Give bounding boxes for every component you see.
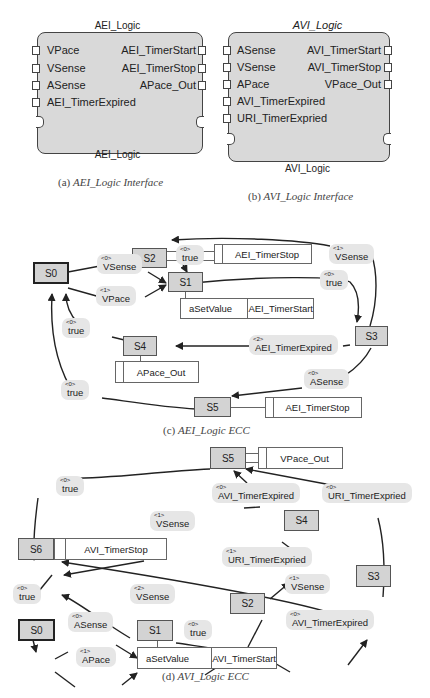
transition-condition[interactable]: <0>true — [176, 245, 204, 265]
condition-label: VSense — [335, 251, 368, 262]
figure-caption: (d) AVI_Logic ECC — [162, 670, 249, 682]
condition-label: true — [67, 387, 83, 398]
figure-caption: (c) AEI_Logic ECC — [163, 424, 250, 436]
action-bar — [116, 362, 124, 382]
action-connector — [231, 407, 265, 408]
transition-condition[interactable]: <2>AEI_TimerExpired — [249, 335, 338, 355]
action-output: AVI_TimerStart — [212, 653, 276, 664]
state-s1[interactable]: S1 — [137, 620, 173, 641]
state-action: AEI_TimerStop — [214, 244, 312, 264]
transition-condition[interactable]: <0>true — [184, 620, 212, 640]
action-algorithm: aSetValue — [138, 648, 212, 668]
state-s1[interactable]: S1 — [168, 272, 203, 292]
condition-label: ASense — [74, 619, 107, 630]
transition-condition[interactable]: <0>URI_TimerExpried — [322, 483, 412, 503]
transition-condition[interactable]: <0>ASense — [68, 612, 113, 632]
condition-label: ASense — [310, 376, 343, 387]
state-action: APace_Out — [115, 361, 199, 383]
state-s5[interactable]: S5 — [210, 447, 246, 469]
condition-label: true — [68, 325, 84, 336]
caption-prefix: (d) — [162, 670, 175, 682]
state-action: VPace_Out — [258, 447, 343, 469]
action-bar — [215, 245, 223, 263]
condition-label: VSense — [156, 518, 189, 529]
transition-condition[interactable]: <0>true — [61, 380, 89, 400]
state-s3[interactable]: S3 — [356, 565, 391, 587]
transition-condition[interactable]: <1>VPace — [96, 286, 136, 306]
state-s2[interactable]: S2 — [230, 593, 265, 614]
condition-label: AVI_TimerExpired — [292, 617, 368, 628]
transition-condition[interactable]: <0>true — [320, 270, 348, 290]
state-action: AVI_TimerStop — [66, 538, 167, 560]
action-output: AVI_TimerStop — [66, 544, 166, 555]
transition-condition[interactable]: <0>AVI_TimerExpired — [212, 483, 300, 503]
action-bar — [259, 448, 267, 468]
condition-label: true — [19, 591, 35, 602]
transition-condition[interactable]: <1>URI_TimerExpried — [222, 547, 312, 567]
state-s4[interactable]: S4 — [284, 510, 319, 531]
state-s0-initial[interactable]: S0 — [33, 262, 69, 284]
transition-condition[interactable]: <0>true — [13, 584, 41, 604]
condition-label: true — [190, 627, 206, 638]
condition-label: VSense — [136, 591, 169, 602]
condition-label: VSense — [291, 581, 324, 592]
state-s5[interactable]: S5 — [194, 397, 231, 417]
condition-label: true — [62, 483, 78, 494]
state-action: aSetValue AEI_TimerStart — [180, 298, 314, 319]
condition-label: APace — [82, 654, 110, 665]
action-output: APace_Out — [124, 367, 198, 378]
action-connector — [140, 356, 141, 361]
caption-text: AEI_Logic ECC — [178, 424, 250, 436]
condition-label: AVI_TimerExpired — [218, 490, 294, 501]
condition-label: URI_TimerExpried — [228, 554, 306, 565]
action-connector — [185, 292, 186, 298]
action-output: VPace_Out — [267, 453, 342, 464]
transition-condition[interactable]: <0>true — [62, 318, 90, 338]
action-output: AEI_TimerStop — [274, 402, 361, 413]
transition-condition[interactable]: <0>VSense — [97, 254, 142, 274]
action-algorithm: aSetValue — [181, 299, 248, 318]
condition-label: VSense — [103, 261, 136, 272]
action-connector — [246, 453, 258, 463]
state-s6[interactable]: S6 — [18, 538, 54, 560]
transition-condition[interactable]: <2>VSense — [130, 584, 175, 604]
condition-label: VPace — [102, 293, 130, 304]
condition-label: true — [182, 252, 198, 263]
state-s3[interactable]: S3 — [355, 326, 388, 346]
transition-edges — [0, 0, 430, 698]
transition-condition[interactable]: <0>true — [56, 476, 84, 496]
caption-prefix: (c) — [163, 424, 175, 436]
action-output: AEI_TimerStart — [248, 303, 313, 314]
state-s0-initial[interactable]: S0 — [18, 619, 55, 641]
caption-text: AVI_Logic ECC — [178, 670, 249, 682]
transition-condition[interactable]: <0>ASense — [304, 369, 349, 389]
state-s4[interactable]: S4 — [123, 336, 157, 356]
state-action: aSetValue AVI_TimerStart — [137, 647, 277, 669]
condition-label: true — [326, 277, 342, 288]
transition-condition[interactable]: <1>VSense — [285, 574, 330, 594]
state-action: AEI_TimerStop — [265, 397, 362, 418]
condition-label: URI_TimerExpried — [328, 490, 406, 501]
action-bar — [266, 398, 274, 417]
transition-condition[interactable]: <0>AVI_TimerExpired — [286, 610, 374, 630]
action-connector — [54, 538, 66, 560]
transition-condition[interactable]: <1>VSense — [329, 244, 374, 264]
action-output: AEI_TimerStop — [223, 249, 311, 260]
transition-condition[interactable]: <1>APace — [76, 647, 116, 667]
condition-label: AEI_TimerExpired — [255, 342, 332, 353]
transition-condition[interactable]: <1>VSense — [150, 511, 195, 531]
